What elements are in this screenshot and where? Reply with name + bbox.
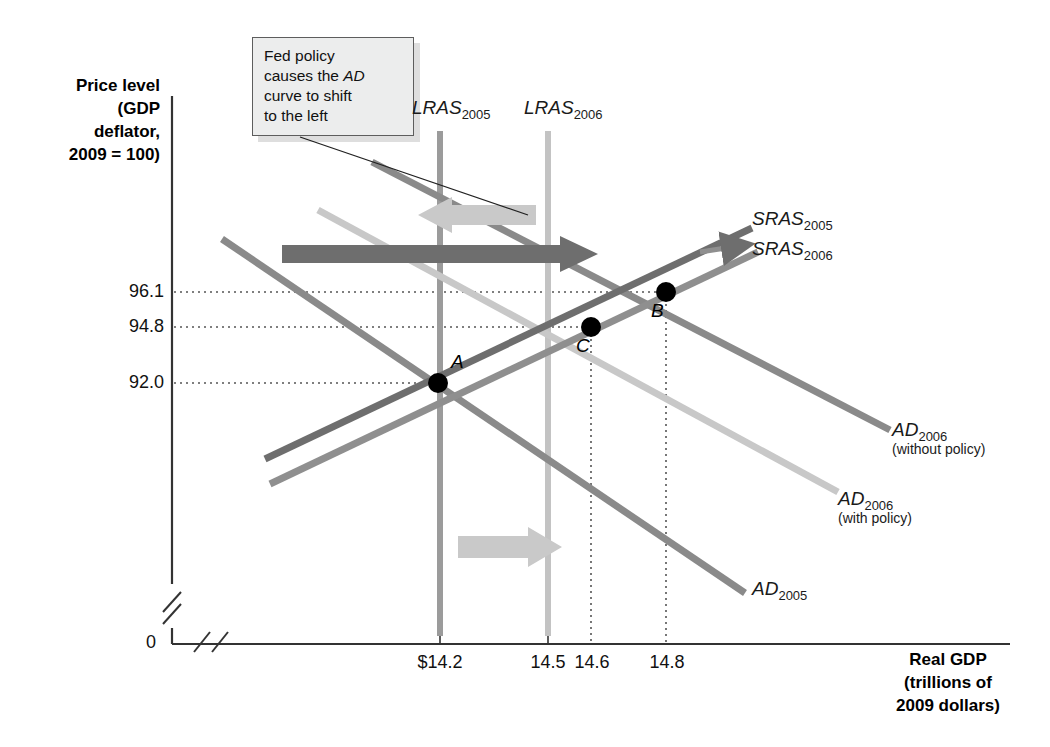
label-ad-2006-with-policy-text: AD: [838, 488, 864, 509]
callout-box: Fed policy causes the AD curve to shift …: [252, 37, 414, 136]
label-sras-2006: SRAS2006: [752, 238, 833, 263]
callout-leader-line: [300, 137, 528, 215]
point-c: [581, 317, 601, 337]
callout-emphasis-ad: AD: [343, 67, 365, 84]
callout-line-2-text: causes the: [264, 67, 343, 84]
label-ad-2006-without-policy-note: (without policy): [892, 441, 985, 457]
label-ad-2005-text: AD: [752, 578, 778, 599]
x-tick-14-8: 14.8: [627, 652, 707, 673]
y-axis-title-line-3: deflator,: [64, 120, 160, 143]
point-b: [656, 282, 676, 302]
point-label-a: A: [451, 351, 464, 373]
callout-line-4: to the left: [264, 106, 404, 126]
label-sras-2006-text: SRAS: [752, 238, 804, 259]
figure-canvas: Price level (GDP deflator, 2009 = 100) 9…: [0, 0, 1050, 747]
label-ad-2006-with-policy-note: (with policy): [838, 510, 912, 526]
axis-origin-label: 0: [146, 632, 156, 653]
point-a: [428, 373, 448, 393]
callout-line-3: curve to shift: [264, 86, 404, 106]
label-lras-2006-text: LRAS: [524, 97, 574, 118]
label-lras-2005: LRAS2005: [412, 97, 491, 122]
label-ad-2005: AD2005: [752, 578, 807, 603]
label-lras-2005-text: LRAS: [412, 97, 462, 118]
label-lras-2006-sub: 2006: [574, 107, 603, 122]
y-tick-94-8: 94.8: [72, 316, 164, 337]
label-sras-2005-text: SRAS: [752, 208, 804, 229]
x-tick-14-6: 14.6: [552, 652, 632, 673]
ad-shift-left-arrow: [418, 197, 536, 233]
x-axis-title-line-1: Real GDP: [858, 648, 1038, 671]
y-tick-96-1: 96.1: [72, 281, 164, 302]
y-axis-title-line-2: (GDP: [64, 97, 160, 120]
label-lras-2006: LRAS2006: [524, 97, 603, 122]
label-lras-2005-sub: 2005: [462, 107, 491, 122]
label-ad-2005-sub: 2005: [778, 588, 807, 603]
y-axis-title-line-4: 2009 = 100): [64, 143, 160, 166]
x-tick-14-2: $14.2: [392, 652, 488, 673]
label-ad-2006-without-policy-text: AD: [892, 419, 918, 440]
label-sras-2005-sub: 2005: [804, 218, 833, 233]
axes: [163, 96, 1010, 652]
y-axis-title: Price level (GDP deflator, 2009 = 100): [64, 74, 160, 166]
callout-line-1: Fed policy: [264, 46, 404, 66]
y-tick-92-0: 92.0: [72, 372, 164, 393]
x-tick-marks: [440, 636, 548, 644]
point-label-b: B: [651, 300, 664, 322]
x-axis-title-line-3: 2009 dollars): [858, 694, 1038, 717]
y-axis-title-line-1: Price level: [64, 74, 160, 97]
curve-sras-2006: [270, 252, 758, 484]
guide-lines: [174, 292, 666, 644]
label-sras-2005: SRAS2005: [752, 208, 833, 233]
label-sras-2006-sub: 2006: [804, 248, 833, 263]
callout-line-2: causes the AD: [264, 66, 404, 86]
point-label-c: C: [576, 335, 590, 357]
x-axis-title: Real GDP (trillions of 2009 dollars): [858, 648, 1038, 717]
x-axis-title-line-2: (trillions of: [858, 671, 1038, 694]
